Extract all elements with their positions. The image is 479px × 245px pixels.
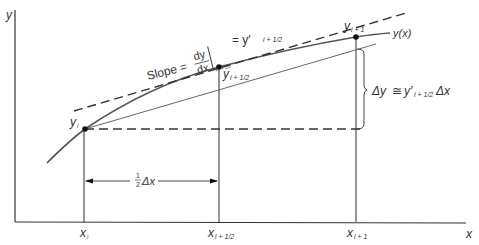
svg-text:≅: ≅	[392, 84, 402, 98]
delta-y-brace	[357, 49, 367, 129]
svg-text:Δx: Δx	[435, 84, 451, 98]
svg-text:y: y	[69, 115, 77, 129]
x-axis	[15, 222, 466, 223]
svg-text:x: x	[79, 226, 87, 240]
svg-text:= y′: = y′	[232, 33, 251, 47]
y-axis-label: y	[5, 8, 13, 22]
diagram-canvas: y x 1 2 Δx y i y i + 1/2 y i + 1 y(x)	[0, 0, 479, 245]
slope-rhs: = y′ i + 1/2	[232, 33, 282, 47]
parallel-line	[85, 44, 376, 129]
label-yi1: y i + 1	[343, 19, 365, 33]
svg-text:i + 1: i + 1	[351, 26, 365, 33]
svg-text:dx: dx	[196, 61, 211, 76]
svg-text:Δx: Δx	[141, 175, 155, 187]
half-dx-label: 1 2 Δx	[135, 172, 155, 188]
svg-text:x: x	[207, 226, 215, 240]
x-axis-label: x	[465, 227, 473, 241]
svg-text:y: y	[343, 19, 351, 33]
svg-text:y′: y′	[403, 84, 413, 98]
delta-y-label: Δy ≅ y′ i + 1/2 Δx	[371, 84, 451, 98]
label-yi: y i	[69, 115, 79, 129]
svg-text:i: i	[77, 123, 79, 129]
curve-label: y(x)	[392, 27, 412, 39]
svg-text:1: 1	[136, 172, 140, 179]
svg-text:i + 1/2: i + 1/2	[230, 74, 249, 81]
svg-text:i + 1/2: i + 1/2	[414, 91, 433, 98]
svg-text:i + 1/2: i + 1/2	[215, 233, 234, 240]
svg-text:dy: dy	[192, 48, 207, 63]
arrowhead-right-icon	[210, 179, 218, 184]
svg-text:i + 1/2: i + 1/2	[263, 36, 282, 43]
tick-label-xi1: x i + 1	[346, 226, 368, 240]
tick-label-xi: x i	[79, 226, 89, 240]
svg-text:i: i	[87, 234, 89, 240]
svg-text:x: x	[346, 226, 354, 240]
svg-text:Δy: Δy	[371, 84, 387, 98]
svg-text:2: 2	[136, 181, 140, 188]
svg-text:i + 1: i + 1	[354, 233, 368, 240]
arrowhead-left-icon	[85, 179, 93, 184]
point-yi	[82, 126, 88, 132]
point-yi1	[353, 34, 359, 40]
tick-label-xi-half: x i + 1/2	[207, 226, 234, 240]
